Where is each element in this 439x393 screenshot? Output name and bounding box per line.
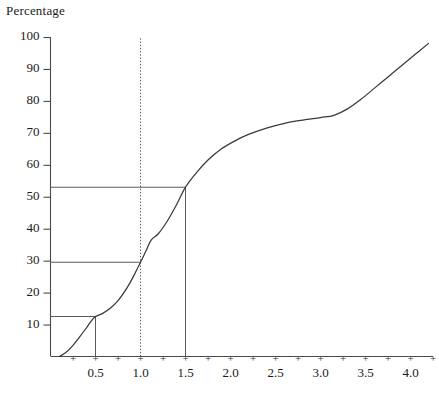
x-axis-tick-glyph: + — [360, 352, 372, 364]
y-axis-tick-label: 60 — [6, 156, 40, 172]
x-axis-tick-label: 3.5 — [346, 365, 386, 381]
y-axis-ticks — [44, 38, 51, 326]
y-axis-tick-label: 50 — [6, 188, 40, 204]
x-axis-tick-glyph: + — [135, 352, 147, 364]
x-axis-tick-label: 1.0 — [121, 365, 161, 381]
x-axis-tick-label: 2.0 — [211, 365, 251, 381]
x-axis-tick-glyph: + — [270, 352, 282, 364]
reference-lines — [50, 37, 186, 357]
x-axis-tick-glyph: + — [337, 352, 349, 364]
x-axis-tick-label: 2.5 — [256, 365, 296, 381]
x-axis-tick-glyph: + — [90, 352, 102, 364]
x-axis-tick-glyph: + — [292, 352, 304, 364]
x-axis-tick-label: 4.0 — [391, 365, 431, 381]
y-axis-tick-label: 40 — [6, 220, 40, 236]
x-axis-tick-label: 0.5 — [76, 365, 116, 381]
x-axis-tick-glyph: + — [180, 352, 192, 364]
x-axis-tick-glyph: + — [157, 352, 169, 364]
y-axis-tick-label: 30 — [6, 252, 40, 268]
data-curve — [60, 43, 429, 356]
x-axis-tick-label: 1.5 — [166, 365, 206, 381]
y-axis-tick-label: 20 — [6, 284, 40, 300]
x-axis-tick-glyph: + — [405, 352, 417, 364]
x-axis-tick-glyph: + — [67, 352, 79, 364]
x-axis-tick-glyph: + — [225, 352, 237, 364]
y-axis-tick-label: 80 — [6, 92, 40, 108]
x-axis-tick-glyph: + — [315, 352, 327, 364]
x-axis-tick-glyph: + — [382, 352, 394, 364]
y-axis-tick-label: 10 — [6, 316, 40, 332]
x-axis-tick-glyph: + — [112, 352, 124, 364]
x-axis-tick-label: 3.0 — [301, 365, 341, 381]
y-axis-tick-label: 90 — [6, 60, 40, 76]
y-axis-tick-label: 70 — [6, 124, 40, 140]
x-axis-tick-glyph: + — [247, 352, 259, 364]
x-axis-tick-glyph: + — [202, 352, 214, 364]
y-axis-tick-label: 100 — [6, 28, 40, 44]
x-axis-tick-glyph: + — [427, 352, 439, 364]
